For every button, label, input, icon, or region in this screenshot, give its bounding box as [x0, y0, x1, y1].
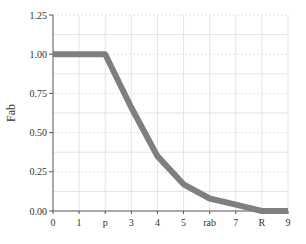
x-axis-ticks: 01p345rab7R9: [51, 211, 291, 228]
y-tick-label: 0.50: [30, 127, 48, 138]
x-tick-label: 4: [155, 217, 160, 228]
x-tick-label: 3: [129, 217, 134, 228]
x-tick-label: 9: [286, 217, 291, 228]
x-tick-label: R: [259, 217, 266, 228]
x-tick-label: rab: [203, 217, 216, 228]
y-tick-label: 0.00: [30, 206, 48, 217]
x-tick-label: 7: [233, 217, 238, 228]
x-tick-label: 0: [51, 217, 56, 228]
y-tick-label: 0.75: [30, 88, 48, 99]
y-tick-label: 1.25: [30, 10, 48, 21]
x-tick-label: 1: [77, 217, 82, 228]
line-chart: 0.000.250.500.751.001.25 01p345rab7R9 Fa…: [0, 0, 306, 244]
x-tick-label: p: [103, 217, 108, 228]
y-tick-label: 1.00: [30, 49, 48, 60]
x-tick-label: 5: [181, 217, 186, 228]
y-axis-label: Fab: [4, 104, 18, 122]
y-axis-ticks: 0.000.250.500.751.001.25: [30, 10, 54, 217]
grid-lines: [53, 15, 288, 211]
y-tick-label: 0.25: [30, 166, 48, 177]
